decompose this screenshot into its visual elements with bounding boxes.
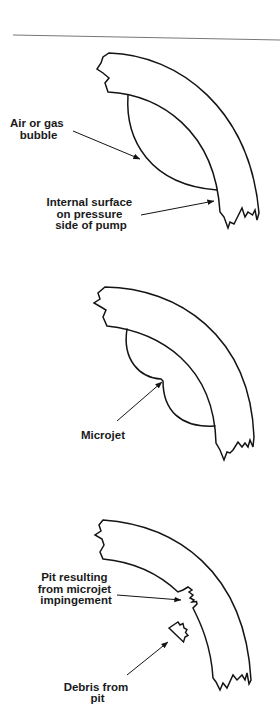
label-debris-from-pit: Debris from pit bbox=[64, 681, 132, 705]
label-line: Internal surface bbox=[47, 196, 133, 208]
label-line: from microjet bbox=[38, 583, 112, 595]
label-air-or-gas-bubble: Air or gas bubble bbox=[10, 117, 67, 141]
label-pit-resulting: Pit resulting from microjet impingement bbox=[38, 571, 115, 607]
bubble-pointer-arrow bbox=[73, 131, 140, 159]
label-line: pit bbox=[90, 692, 104, 704]
panel-bubble-formation: Air or gas bubble Internal surface on pr… bbox=[10, 53, 259, 231]
cavitation-diagram: Air or gas bubble Internal surface on pr… bbox=[0, 0, 280, 718]
internal-surface-pointer-arrow bbox=[141, 201, 214, 215]
panel-bubble-collapse: Microjet bbox=[81, 287, 254, 460]
label-line: impingement bbox=[40, 594, 112, 606]
label-line: Debris from bbox=[64, 681, 129, 693]
label-line: Air or gas bbox=[10, 117, 64, 129]
top-divider-rule bbox=[13, 35, 280, 40]
label-line: bubble bbox=[20, 129, 58, 141]
pit-pointer-arrow bbox=[117, 595, 181, 600]
pit-debris-fragment bbox=[169, 622, 188, 642]
label-line: Microjet bbox=[81, 429, 125, 441]
panel-pit-formation: Pit resulting from microjet impingement … bbox=[38, 520, 251, 704]
air-bubble-shape bbox=[128, 95, 217, 190]
microjet-pointer-arrow bbox=[117, 382, 162, 421]
debris-pointer-arrow bbox=[127, 642, 168, 675]
pump-casing-section bbox=[95, 520, 251, 690]
label-line: side of pump bbox=[55, 219, 127, 231]
label-microjet: Microjet bbox=[81, 429, 125, 441]
label-line: Pit resulting bbox=[41, 571, 107, 583]
label-internal-surface: Internal surface on pressure side of pum… bbox=[47, 196, 136, 231]
collapsing-bubble-shape bbox=[126, 329, 215, 426]
